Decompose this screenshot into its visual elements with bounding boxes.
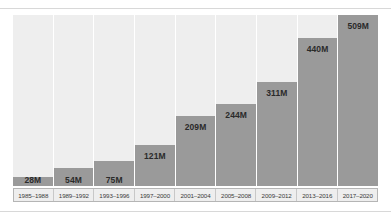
- bar[interactable]: 509M: [338, 15, 378, 186]
- bar-value-label: 311M: [257, 88, 297, 98]
- x-axis-tick-label: 2005–2008: [217, 189, 257, 201]
- bar-value-label: 54M: [54, 175, 94, 185]
- bar-column[interactable]: 509M: [338, 15, 378, 186]
- x-axis-tick-label: 1985–1988: [14, 189, 54, 201]
- bar-column[interactable]: 28M: [13, 15, 53, 186]
- bar-value-label: 75M: [94, 175, 134, 185]
- bar[interactable]: 54M: [54, 168, 94, 186]
- bar[interactable]: 209M: [176, 116, 216, 186]
- bar-value-label: 509M: [338, 21, 378, 31]
- bottom-divider-rule: [0, 211, 391, 212]
- bar-value-label: 121M: [135, 151, 175, 161]
- bar[interactable]: 28M: [13, 177, 53, 186]
- bar-chart-figure: 28M 54M 75M 121M 209M 244M: [0, 0, 391, 219]
- bar-column[interactable]: 209M: [176, 15, 216, 186]
- bar-value-label: 209M: [176, 122, 216, 132]
- x-axis-tick-label: 1993–1996: [95, 189, 135, 201]
- x-axis-tick-label: 2009–2012: [257, 189, 297, 201]
- bar-value-label: 440M: [298, 44, 338, 54]
- top-divider-rule: [0, 8, 391, 9]
- bar-column[interactable]: 75M: [94, 15, 134, 186]
- x-axis-tick-label: 2001–2004: [176, 189, 216, 201]
- bar-column[interactable]: 311M: [257, 15, 297, 186]
- x-axis-tick-label: 2013–2016: [298, 189, 338, 201]
- x-axis-tick-label: 1989–1992: [55, 189, 95, 201]
- x-axis-label-strip: 1985–1988 1989–1992 1993–1996 1997–2000 …: [13, 188, 378, 202]
- bar-value-label: 244M: [216, 110, 256, 120]
- bar[interactable]: 244M: [216, 104, 256, 186]
- bar[interactable]: 311M: [257, 82, 297, 186]
- bar-column[interactable]: 54M: [54, 15, 94, 186]
- bar-column[interactable]: 121M: [135, 15, 175, 186]
- bar-column[interactable]: 244M: [216, 15, 256, 186]
- x-axis-tick-label: 2017–2020: [339, 189, 378, 201]
- x-axis-tick-label: 1997–2000: [136, 189, 176, 201]
- bar[interactable]: 121M: [135, 145, 175, 186]
- bar-value-label: 28M: [13, 175, 53, 185]
- bar[interactable]: 75M: [94, 161, 134, 186]
- bar[interactable]: 440M: [298, 38, 338, 186]
- plot-area: 28M 54M 75M 121M 209M 244M: [13, 15, 378, 186]
- bar-column[interactable]: 440M: [298, 15, 338, 186]
